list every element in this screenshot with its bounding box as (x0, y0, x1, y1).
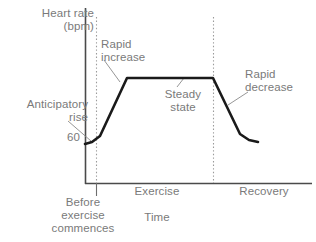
y-tick-label-60: 60 (58, 131, 80, 144)
y-axis-title-line2: (bpm) (63, 20, 94, 32)
annotation-rapid-increase-line2: increase (101, 51, 145, 63)
annotation-rapid-increase: Rapidincrease (101, 38, 163, 64)
y-axis-title: Heart rate(bpm) (16, 7, 94, 33)
annotation-steady-state-line2: state (170, 101, 195, 113)
annotation-rapid-decrease: Rapiddecrease (245, 68, 311, 94)
annotation-rapid-increase-line1: Rapid (101, 38, 132, 50)
heart-rate-exercise-graph: Heart rate(bpm) 60 Anticipatoryrise Rapi… (0, 0, 316, 242)
annotation-anticipatory-rise-line2: rise (69, 111, 88, 123)
x-region-before-line1: Before (66, 196, 100, 208)
annotation-rapid-decrease-line1: Rapid (245, 68, 276, 80)
x-axis-title: Time (129, 211, 185, 224)
x-region-label-exercise: Exercise (125, 185, 189, 198)
x-region-before-line2: exercise (61, 209, 105, 221)
annotation-steady-state-line1: Steady (165, 88, 201, 100)
annotation-anticipatory-rise: Anticipatoryrise (4, 98, 88, 124)
leader-steady-state (177, 78, 184, 87)
annotation-steady-state: Steadystate (155, 88, 211, 114)
annotation-anticipatory-rise-line1: Anticipatory (27, 98, 88, 110)
y-axis-title-line1: Heart rate (42, 7, 94, 19)
annotation-rapid-decrease-line2: decrease (245, 81, 293, 93)
x-region-label-recovery: Recovery (228, 185, 300, 198)
x-region-label-before-exercise: Beforeexercisecommences (28, 196, 138, 235)
x-region-before-line3: commences (52, 222, 115, 234)
